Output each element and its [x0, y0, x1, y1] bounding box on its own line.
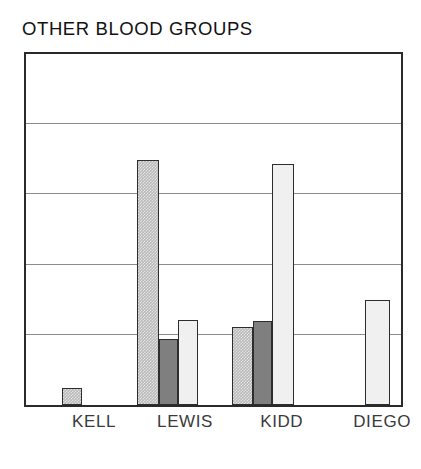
plot-area: [24, 52, 403, 407]
category-label-kell: KELL: [72, 412, 116, 432]
bar-diego-bar-1: [365, 300, 390, 405]
bar-kidd-bar-1: [232, 327, 253, 405]
bar-lewis-bar-1: [137, 160, 159, 405]
bar-chart-figure: OTHER BLOOD GROUPS KELLLEWISKIDDDIEGO: [0, 0, 421, 469]
category-label-kidd: KIDD: [260, 412, 303, 432]
bar-kidd-bar-3: [272, 164, 294, 405]
bars-layer: [26, 54, 401, 405]
bar-lewis-bar-3: [178, 320, 199, 405]
bar-kidd-bar-2: [253, 321, 273, 405]
chart-title: OTHER BLOOD GROUPS: [22, 18, 253, 40]
category-label-diego: DIEGO: [353, 412, 411, 432]
category-label-lewis: LEWIS: [157, 412, 213, 432]
category-axis-labels: KELLLEWISKIDDDIEGO: [24, 412, 403, 446]
bar-lewis-bar-2: [159, 339, 178, 405]
bar-kell-bar-1: [62, 388, 83, 405]
